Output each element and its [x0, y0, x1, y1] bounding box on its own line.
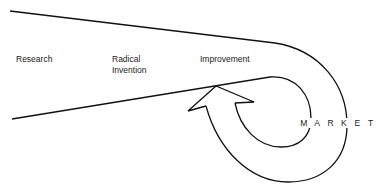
label-radical-line1: Radical	[112, 54, 147, 65]
market-letter: E	[351, 118, 364, 128]
label-improvement: Improvement	[200, 54, 250, 65]
label-radical-line2: Invention	[112, 65, 147, 76]
outer-funnel-line	[10, 11, 347, 182]
market-letter: R	[324, 118, 337, 128]
label-radical-invention: Radical Invention	[112, 54, 147, 76]
market-letter: K	[337, 118, 350, 128]
inner-funnel-line	[12, 77, 311, 147]
market-letter: T	[364, 118, 377, 128]
feedback-arrow-head-icon	[188, 86, 254, 111]
label-market: MARKET	[296, 118, 378, 128]
label-research: Research	[16, 54, 52, 65]
market-letter: M	[297, 118, 310, 128]
market-letter: A	[310, 118, 323, 128]
